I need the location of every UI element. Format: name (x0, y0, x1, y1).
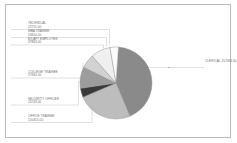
callout-label-ex-aft-employee[interactable]: EX/AFT EMPLOYEE 37863.00 (28, 38, 58, 46)
callout-label-college-trainee[interactable]: COLLEGE TRAINEE 57844.00 (28, 71, 58, 79)
callout-label-office-trainee[interactable]: OFFICE TRAINEE 150455.00 (28, 115, 54, 123)
callout-label-college-trainee-value: 57844.00 (28, 74, 58, 78)
callout-label-clerical-name: CLERICAL (205, 59, 221, 63)
callout-label-ex-aft-employee-value: 37863.00 (28, 41, 58, 45)
callout-label-office-trainee-value: 150455.00 (28, 119, 54, 123)
callout-label-clerical-value: 257364.00 (221, 59, 236, 63)
leader-line-ex-aft-employee (11, 45, 104, 49)
callout-label-security-officer[interactable]: SECURITY OFFICER 24743.00 (28, 98, 59, 106)
leader-dot-clerical (168, 67, 169, 68)
pie-slices (80, 47, 152, 119)
callout-label-clerical[interactable]: CLERICAL 257364.00 (205, 60, 236, 64)
chart-frame: TECHNICAL 22715.00 MBA TRAINEE 53650.00 … (5, 4, 231, 138)
callout-label-security-officer-value: 24743.00 (28, 101, 59, 105)
